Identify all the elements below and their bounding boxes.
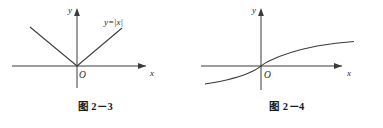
equation-label-abs: y=|x| [104,18,123,27]
cube-root-curve [205,42,354,84]
y-axis-arrowhead [74,8,80,16]
absolute-value-curve [30,27,122,66]
x-axis-label: x [149,68,154,78]
y-axis-arrowhead [258,8,264,16]
origin-label: O [79,70,86,80]
figure-2-4-plot: x y O [191,0,383,100]
figure-2-4-caption: 图 2－4 [191,98,383,113]
y-axis-label: y [251,5,256,15]
figure-2-4-panel: x y O y=3√x 图 2－4 [191,0,383,128]
x-axis-arrowhead [334,63,342,69]
figures-container: x y O y=|x| 图 2－3 x y O [0,0,383,128]
figure-2-3-svg: x y O [0,0,191,100]
figure-2-4-svg: x y O [191,0,383,100]
figure-2-3-caption: 图 2－3 [0,98,191,113]
figure-2-3-panel: x y O y=|x| 图 2－3 [0,0,191,128]
y-axis-label: y [67,5,72,15]
x-axis-label: x [346,68,351,78]
origin-label: O [264,70,271,80]
figure-2-3-plot: x y O [0,0,191,100]
x-axis-arrowhead [138,63,146,69]
